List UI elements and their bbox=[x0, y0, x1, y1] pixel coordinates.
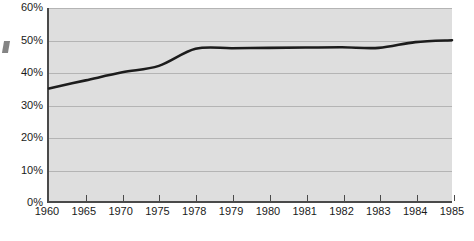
line-chart-figure: 60%50%40%30%20%10%0% 1960196519701975197… bbox=[0, 0, 474, 241]
x-axis-labels: 1960196519701975197819791980198119821983… bbox=[0, 0, 474, 241]
x-axis-tick-label: 1985 bbox=[430, 206, 474, 217]
